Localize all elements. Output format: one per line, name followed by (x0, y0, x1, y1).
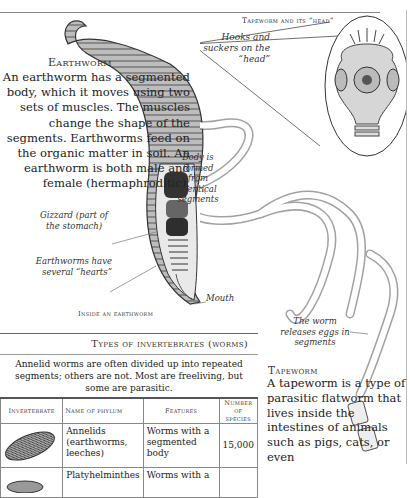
flatworm-icon (1, 473, 59, 493)
phylum-cell: Annelids (earthworms, leeches) (63, 424, 144, 468)
header-features: Features (143, 398, 219, 424)
phylum-cell: Platyhelminthes (63, 468, 144, 498)
header-invertebrate: Invertebrate (1, 398, 63, 424)
table-row: Platyhelminthes Worms with a (1, 468, 258, 498)
header-phylum: Name of phylum (63, 398, 144, 424)
gizzard-label: Gizzard (part of the stomach) (34, 210, 114, 231)
flatworm-image-cell (1, 468, 63, 498)
features-cell: Worms with a segmented body (143, 424, 219, 468)
tapeworm-description: A tapeworm is a type of parasitic flatwo… (267, 376, 407, 465)
species-cell: 15,000 (219, 424, 258, 468)
body-segments-label: Body is formed from identical segments (176, 152, 220, 205)
earthworm-title: Earthworm (48, 56, 112, 69)
table-title: Types of invertebrates (worms) (0, 333, 258, 355)
worm-types-table-panel: Types of invertebrates (worms) Annelid w… (0, 333, 258, 498)
mouth-label: Mouth (206, 293, 234, 303)
hooks-label: Hooks and suckers on the “head” (200, 32, 270, 65)
table-header-row: Invertebrate Name of phylum Features Num… (1, 398, 258, 424)
earthworm-description: An earthworm has a segmented body, which… (0, 70, 190, 192)
eggs-label: The worm releases eggs in segments (280, 316, 350, 348)
annelid-image-cell (1, 424, 63, 468)
hearts-label: Earthworms have several “hearts” (30, 256, 112, 277)
header-species: Number of species (219, 398, 258, 424)
table-row: Annelids (earthworms, leeches) Worms wit… (1, 424, 258, 468)
features-cell: Worms with a (143, 468, 219, 498)
earthworm-caption: Inside an earthworm (78, 310, 153, 318)
species-cell (219, 468, 258, 498)
annelid-icon (1, 426, 59, 466)
tapeworm-title: Tapeworm (268, 364, 318, 376)
table-intro: Annelid worms are often divided up into … (0, 355, 258, 397)
tapeworm-head-title: Tapeworm and its “head” (242, 16, 334, 25)
worm-types-table: Invertebrate Name of phylum Features Num… (0, 397, 258, 498)
